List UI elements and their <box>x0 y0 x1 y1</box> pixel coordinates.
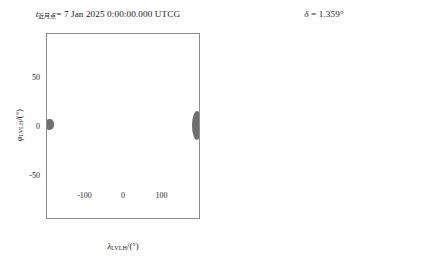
title-equals-right: = <box>311 9 316 19</box>
data-cluster-east <box>192 111 200 140</box>
yticklabel-left-2: -50 <box>22 171 40 180</box>
yaxis-subscript-left: LVLH <box>17 121 24 137</box>
xticklabel-left-2: 100 <box>156 191 168 200</box>
yticklabel-left-1: 0 <box>22 122 40 131</box>
xticklabel-left-0: -100 <box>77 191 92 200</box>
data-cluster-west <box>46 119 54 130</box>
xaxis-label-left: λLVLH/(°) <box>46 241 200 251</box>
xaxis-subscript-left: LVLH <box>111 244 127 251</box>
title-value-right: 1.359° <box>319 9 344 19</box>
title-equals: = <box>56 9 61 19</box>
yaxis-label-left: φLVLH/(°) <box>14 95 24 155</box>
panel-right: δ = 1.359° -100 0 100 50 0 -50 λBCF/(°) <box>216 0 432 266</box>
xaxis-units-left: /(°) <box>127 241 139 251</box>
xticklabel-left-1: 0 <box>121 191 125 200</box>
panel-right-title: δ = 1.359° <box>216 9 432 19</box>
title-value: 7 Jan 2025 0:00:00.000 UTCG <box>64 9 180 19</box>
yaxis-variable-left: φ <box>14 137 24 142</box>
yticklabel-left-0: 50 <box>22 73 40 82</box>
title-subscript: 近月点 <box>38 12 56 19</box>
panel-left-title: t近月点= 7 Jan 2025 0:00:00.000 UTCG <box>0 9 216 20</box>
panel-left: t近月点= 7 Jan 2025 0:00:00.000 UTCG -100 0… <box>0 0 216 266</box>
title-variable-right: δ <box>304 9 308 19</box>
figure-root: t近月点= 7 Jan 2025 0:00:00.000 UTCG -100 0… <box>0 0 432 266</box>
yaxis-units-left: /(°) <box>14 109 24 121</box>
